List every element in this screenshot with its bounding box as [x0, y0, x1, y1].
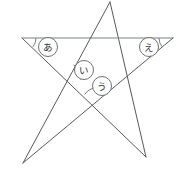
pentagram-diagram: あいうえ	[0, 0, 188, 179]
label-a: あ	[39, 38, 58, 57]
label-i: い	[75, 61, 94, 80]
label-e-arc	[159, 38, 162, 47]
label-e: え	[140, 38, 159, 57]
angle-labels-group: あいうえ	[39, 38, 159, 96]
label-a-arc	[33, 38, 36, 47]
label-i-text: い	[79, 65, 89, 76]
figure-canvas: あいうえ	[0, 0, 188, 179]
label-u-text: う	[97, 81, 107, 92]
edge-bottomright-left	[22, 38, 146, 157]
label-e-text: え	[144, 42, 154, 53]
label-a-text: あ	[43, 42, 53, 53]
edge-top-bottomright	[110, 2, 146, 157]
label-u: う	[93, 77, 112, 96]
